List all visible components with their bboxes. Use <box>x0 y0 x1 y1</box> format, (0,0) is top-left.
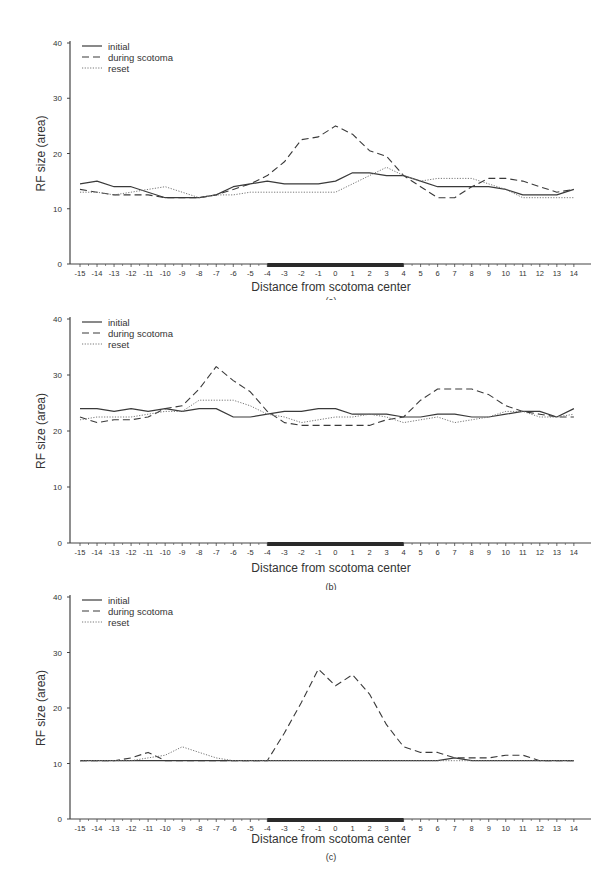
x-tick-label: -12 <box>126 824 137 833</box>
x-tick-label: -15 <box>75 269 86 278</box>
x-tick-label: -7 <box>213 824 220 833</box>
legend-label: during scotoma <box>108 52 174 63</box>
x-tick-label: 7 <box>453 548 457 557</box>
y-tick-label: 10 <box>53 205 62 214</box>
x-tick-label: -10 <box>160 548 171 557</box>
series-line-during-scotoma <box>80 367 574 426</box>
x-tick-label: 0 <box>333 548 337 557</box>
x-tick-label: 3 <box>384 269 388 278</box>
x-tick-label: -13 <box>109 824 120 833</box>
x-tick-label: 14 <box>570 824 578 833</box>
chart-svg-b: 010203040-15-14-13-12-11-10-9-8-7-6-5-4-… <box>0 300 612 590</box>
x-tick-label: -8 <box>196 269 203 278</box>
x-tick-label: -4 <box>264 269 271 278</box>
x-tick-label: 13 <box>553 548 561 557</box>
x-tick-label: 10 <box>502 269 510 278</box>
chart-panel-c: 010203040-15-14-13-12-11-10-9-8-7-6-5-4-… <box>0 590 612 894</box>
y-axis-label: RF size (area) <box>34 115 48 191</box>
x-tick-label: 13 <box>553 824 561 833</box>
y-tick-label: 20 <box>53 704 62 713</box>
chart-svg-c: 010203040-15-14-13-12-11-10-9-8-7-6-5-4-… <box>0 590 612 894</box>
x-tick-label: 4 <box>401 548 405 557</box>
x-tick-label: -8 <box>196 548 203 557</box>
x-tick-label: -8 <box>196 824 203 833</box>
x-tick-label: -5 <box>247 548 254 557</box>
series-line-during-scotoma <box>80 669 574 761</box>
x-tick-label: 8 <box>470 269 474 278</box>
y-tick-label: 0 <box>58 260 63 269</box>
series-line-reset <box>80 400 574 422</box>
x-tick-label: 9 <box>487 269 491 278</box>
series-line-reset <box>80 747 574 761</box>
y-tick-label: 20 <box>53 150 62 159</box>
x-tick-label: -2 <box>298 548 305 557</box>
x-tick-label: -9 <box>179 269 186 278</box>
y-tick-label: 10 <box>53 483 62 492</box>
x-tick-label: 1 <box>350 269 354 278</box>
x-tick-label: 14 <box>570 269 578 278</box>
y-tick-label: 40 <box>53 315 62 324</box>
legend-label: reset <box>108 339 129 350</box>
x-tick-label: -13 <box>109 269 120 278</box>
x-tick-label: -14 <box>92 269 103 278</box>
scotoma-bar <box>267 542 403 546</box>
x-tick-label: 14 <box>570 548 578 557</box>
x-tick-label: -6 <box>230 548 237 557</box>
x-tick-label: -7 <box>213 269 220 278</box>
y-tick-label: 30 <box>53 371 62 380</box>
legend-label: initial <box>108 317 130 328</box>
x-tick-label: -12 <box>126 548 137 557</box>
series-line-initial <box>80 409 574 417</box>
x-tick-label: -14 <box>92 548 103 557</box>
x-tick-label: -9 <box>179 548 186 557</box>
x-tick-label: 11 <box>519 824 527 833</box>
x-tick-label: 2 <box>367 548 371 557</box>
x-tick-label: 5 <box>419 824 423 833</box>
legend-label: during scotoma <box>108 606 174 617</box>
x-tick-label: 7 <box>453 269 457 278</box>
x-tick-label: 9 <box>487 548 491 557</box>
x-tick-label: -3 <box>281 548 288 557</box>
x-tick-label: -10 <box>160 269 171 278</box>
x-tick-label: -14 <box>92 824 103 833</box>
x-tick-label: -4 <box>264 548 271 557</box>
panel-label: (b) <box>326 582 337 590</box>
panel-label: (c) <box>326 852 337 862</box>
series-line-during-scotoma <box>80 126 574 198</box>
x-axis-label: Distance from scotoma center <box>251 280 410 294</box>
x-tick-label: -12 <box>126 269 137 278</box>
x-tick-label: 12 <box>536 824 544 833</box>
x-tick-label: -1 <box>315 269 322 278</box>
x-tick-label: -11 <box>143 548 153 557</box>
x-tick-label: 11 <box>519 269 527 278</box>
x-tick-label: 10 <box>502 824 510 833</box>
x-tick-label: 5 <box>419 269 423 278</box>
x-tick-label: -15 <box>75 548 86 557</box>
y-axis-label: RF size (area) <box>34 670 48 746</box>
scotoma-bar <box>267 263 403 267</box>
x-tick-label: 9 <box>487 824 491 833</box>
x-tick-label: 13 <box>553 269 561 278</box>
y-tick-label: 30 <box>53 649 62 658</box>
x-tick-label: -6 <box>230 269 237 278</box>
y-tick-label: 10 <box>53 760 62 769</box>
x-tick-label: 8 <box>470 548 474 557</box>
legend-label: reset <box>108 63 129 74</box>
x-axis-label: Distance from scotoma center <box>251 832 410 846</box>
x-tick-label: -3 <box>281 269 288 278</box>
x-tick-label: -15 <box>75 824 86 833</box>
x-tick-label: -2 <box>298 269 305 278</box>
scotoma-bar <box>267 818 403 822</box>
x-tick-label: 5 <box>419 548 423 557</box>
x-tick-label: 2 <box>367 269 371 278</box>
x-tick-label: -11 <box>143 269 153 278</box>
y-tick-label: 20 <box>53 427 62 436</box>
x-tick-label: 1 <box>350 548 354 557</box>
x-tick-label: 10 <box>502 548 510 557</box>
series-line-initial <box>80 173 574 198</box>
x-tick-label: 6 <box>436 548 440 557</box>
x-tick-label: 3 <box>384 548 388 557</box>
legend-label: reset <box>108 617 129 628</box>
y-tick-label: 40 <box>53 39 62 48</box>
x-tick-label: 12 <box>536 548 544 557</box>
